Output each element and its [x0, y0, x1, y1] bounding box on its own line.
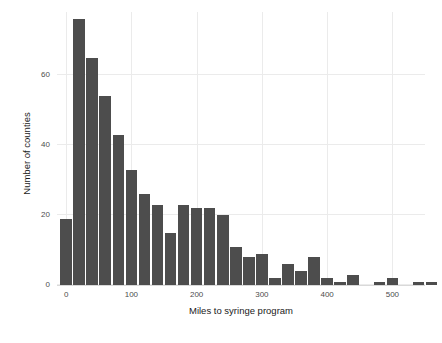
histogram-bar: [113, 135, 125, 286]
histogram-bar: [230, 247, 242, 286]
histogram-bar: [178, 205, 190, 286]
y-tick-label: 20: [30, 210, 50, 219]
histogram-bar: [165, 233, 177, 286]
y-tick-label: 60: [30, 70, 50, 79]
x-tick-label: 500: [372, 290, 412, 299]
histogram-bar: [191, 208, 203, 285]
x-axis-line: [57, 285, 425, 286]
y-tick-label: 40: [30, 140, 50, 149]
histogram-bar: [387, 278, 399, 285]
plot-panel: [57, 12, 425, 285]
histogram-bar: [126, 170, 138, 286]
histogram-bar: [73, 19, 85, 285]
histogram-bar: [269, 278, 281, 285]
histogram-figure: 0100200300400500 0204060 Miles to syring…: [0, 0, 442, 343]
histogram-bar: [60, 219, 72, 286]
x-tick-label: 100: [111, 290, 151, 299]
x-tick-label: 0: [46, 290, 86, 299]
histogram-bar: [282, 264, 294, 285]
histogram-bar: [295, 271, 307, 285]
x-tick-label: 300: [242, 290, 282, 299]
histogram-bar: [99, 96, 111, 285]
histogram-bar: [243, 257, 255, 285]
histogram-bar: [204, 208, 216, 285]
gridline-vertical: [392, 12, 393, 285]
gridline-horizontal: [57, 74, 425, 75]
histogram-bar: [347, 275, 359, 286]
histogram-bar: [321, 278, 333, 285]
y-tick-label: 0: [30, 280, 50, 289]
histogram-bar: [217, 215, 229, 285]
histogram-bar: [152, 205, 164, 286]
histogram-bar: [256, 254, 268, 286]
histogram-bar: [139, 194, 151, 285]
histogram-bar: [426, 282, 438, 286]
gridline-vertical: [262, 12, 263, 285]
histogram-bar: [308, 257, 320, 285]
histogram-bar: [86, 58, 98, 286]
gridline-vertical: [327, 12, 328, 285]
x-tick-label: 200: [177, 290, 217, 299]
x-tick-label: 400: [307, 290, 347, 299]
y-axis-title: Number of counties: [21, 74, 32, 234]
x-axis-title: Miles to syringe program: [57, 305, 425, 316]
